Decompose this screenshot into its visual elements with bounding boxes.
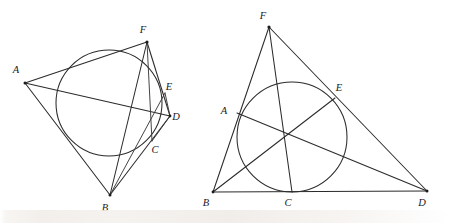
point-label-F-right: F [259, 10, 267, 21]
point-label-D: D [171, 111, 180, 122]
point-label-B-right: B [203, 197, 210, 208]
vertex-dot-F-right [267, 25, 270, 28]
vertex-dot-A [24, 82, 27, 85]
point-label-B: B [102, 202, 109, 213]
geometry-figure: A B C D E F F A E B C D [0, 0, 451, 223]
cevian-BE [213, 98, 335, 192]
point-label-D-right: D [417, 197, 426, 208]
segment-AF [25, 42, 147, 83]
vertex-dot-F [145, 40, 148, 43]
vertex-dot-D [169, 115, 172, 118]
point-label-C: C [151, 144, 159, 155]
diagonal-FB [110, 42, 147, 195]
segment-FD [269, 27, 427, 191]
point-label-A: A [12, 64, 20, 75]
left-incircle [56, 50, 162, 156]
vertex-dot-B-right [212, 191, 215, 194]
cevian-FC [269, 27, 292, 192]
segment-ED [165, 93, 170, 116]
right-panel: F A E B C D [203, 10, 429, 208]
point-label-E-right: E [335, 82, 343, 93]
point-label-A-right: A [220, 105, 228, 116]
baseline-BD [213, 191, 427, 192]
segment-DC [152, 116, 170, 141]
right-incircle [237, 82, 347, 192]
vertex-dot-B [109, 194, 112, 197]
point-label-C-right: C [284, 197, 292, 208]
point-label-E: E [165, 81, 173, 92]
left-panel: A B C D E F [12, 24, 180, 213]
vertex-dot-D-right [426, 190, 429, 193]
point-label-F: F [139, 24, 147, 35]
